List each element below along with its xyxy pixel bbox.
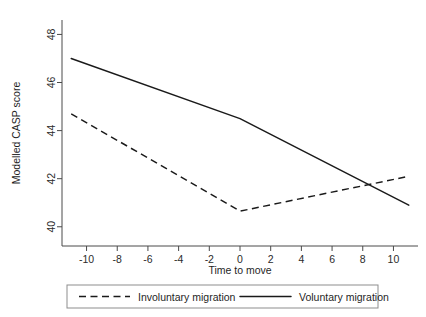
data-series-group [71, 58, 409, 211]
legend-label-involuntary-migration: Involuntary migration [138, 291, 236, 303]
series-voluntary-migration [71, 58, 409, 205]
x-tick-label--10: -10 [79, 253, 94, 265]
y-tick-label-40: 40 [45, 221, 57, 233]
y-axis-tick-labels: 4042444648 [45, 28, 57, 232]
y-axis-title: Modelled CASP score [10, 82, 22, 185]
y-tick-label-44: 44 [45, 125, 57, 137]
legend-label-voluntary-migration: Voluntary migration [299, 291, 389, 303]
y-tick-label-46: 46 [45, 77, 57, 89]
y-axis-ticks [57, 34, 62, 226]
y-axis: 4042444648 Modelled CASP score [10, 20, 62, 246]
x-axis-title: Time to move [208, 264, 271, 276]
x-tick-label-10: 10 [388, 253, 400, 265]
x-axis: -10-8-6-4-20246810 Time to move [62, 246, 418, 276]
x-tick-label--4: -4 [174, 253, 183, 265]
x-tick-label--6: -6 [143, 253, 152, 265]
x-axis-ticks [87, 246, 394, 251]
casp-score-line-chart: 4042444648 Modelled CASP score -10-8-6-4… [0, 0, 426, 317]
x-tick-label-4: 4 [298, 253, 304, 265]
series-involuntary-migration [71, 114, 409, 211]
y-tick-label-42: 42 [45, 173, 57, 185]
x-tick-label-6: 6 [329, 253, 335, 265]
x-tick-label-8: 8 [360, 253, 366, 265]
x-tick-label--8: -8 [113, 253, 122, 265]
chart-figure: 4042444648 Modelled CASP score -10-8-6-4… [0, 0, 426, 317]
y-tick-label-48: 48 [45, 28, 57, 40]
chart-legend: Involuntary migration Voluntary migratio… [67, 285, 389, 308]
